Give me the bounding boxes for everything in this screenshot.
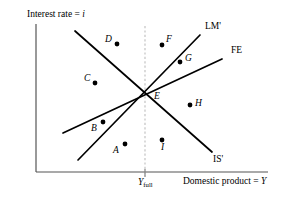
point-label-c: C <box>84 74 90 84</box>
point-label-h: H <box>195 99 202 109</box>
x-axis-label: Domestic product = Y <box>183 177 266 187</box>
y-full-label-sub: full <box>143 181 152 188</box>
y-full-label: Yfull <box>138 178 153 188</box>
lm-prime-curve-label: LM' <box>205 22 221 32</box>
is-prime-curve <box>75 31 212 152</box>
data-point-c <box>93 81 98 86</box>
diagram-canvas <box>0 0 291 204</box>
point-label-d: D <box>105 35 112 45</box>
x-axis-label-symbol: Y <box>261 176 266 186</box>
point-label-i: I <box>161 143 164 153</box>
data-point-d <box>115 42 120 47</box>
fe-curve <box>63 59 222 133</box>
point-label-g: G <box>185 54 192 64</box>
curves-group <box>63 31 222 160</box>
fe-curve-label: FE <box>231 46 242 56</box>
data-point-b <box>101 120 106 125</box>
point-label-f: F <box>166 35 172 45</box>
y-axis-label: Interest rate = i <box>27 10 85 20</box>
y-axis-label-text: Interest rate = <box>27 9 82 19</box>
x-axis-label-text: Domestic product = <box>183 176 261 186</box>
data-point-a <box>123 142 128 147</box>
point-label-a: A <box>113 146 119 156</box>
y-axis-label-symbol: i <box>82 9 85 19</box>
data-point-g <box>178 60 183 65</box>
is-lm-fe-diagram: Interest rate = i Domestic product = Y Y… <box>0 0 291 204</box>
point-label-b: B <box>91 124 97 134</box>
data-point-h <box>188 103 193 108</box>
is-prime-curve-label: IS' <box>213 155 223 165</box>
equilibrium-label-e: E <box>154 92 160 102</box>
data-point-f <box>160 43 165 48</box>
